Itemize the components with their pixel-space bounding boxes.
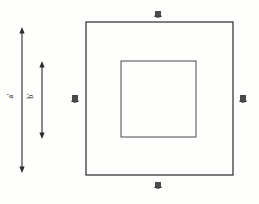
dimension-label-b: b' bbox=[27, 93, 35, 98]
diagram-svg bbox=[0, 0, 259, 204]
arrow-a-head-top bbox=[19, 27, 24, 34]
edge-markers bbox=[71, 11, 247, 189]
dimension-label-a: a' bbox=[7, 94, 15, 99]
figure-canvas: a' b' bbox=[0, 0, 259, 204]
marker-bottom-icon bbox=[154, 182, 162, 189]
marker-top-icon bbox=[154, 11, 162, 18]
marker-right-icon bbox=[239, 95, 247, 103]
arrow-b-head-bottom bbox=[39, 133, 44, 140]
arrow-a-head-bottom bbox=[19, 167, 24, 174]
outer-square bbox=[86, 22, 233, 175]
marker-left-icon bbox=[71, 95, 79, 103]
inner-square bbox=[121, 61, 196, 137]
arrow-b-head-top bbox=[39, 61, 44, 68]
dimension-arrow-b bbox=[39, 61, 44, 139]
dimension-arrow-a bbox=[19, 27, 24, 173]
